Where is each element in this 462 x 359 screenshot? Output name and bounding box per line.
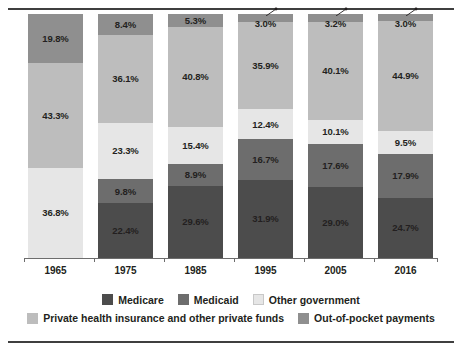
x-axis-tick — [437, 258, 438, 262]
segment-value-label: 17.9% — [392, 171, 418, 181]
top-divider-rule — [8, 8, 454, 10]
segment-value-label: 29.6% — [182, 217, 208, 227]
segment-2016-medicaid[interactable]: 17.9% — [378, 154, 433, 198]
segment-1995-private-health-insurance-and-other-private-funds[interactable]: 35.9% — [238, 22, 293, 110]
legend-swatch-icon — [178, 294, 189, 305]
segment-value-label: 43.3% — [42, 111, 68, 121]
segment-1975-medicaid[interactable]: 9.8% — [98, 179, 153, 203]
segment-2016-medicare[interactable]: 24.7% — [378, 198, 433, 258]
legend-label: Private health insurance and other priva… — [43, 312, 284, 324]
segment-value-label: 44.9% — [392, 71, 418, 81]
segment-value-label: 5.3% — [185, 16, 206, 26]
segment-1975-private-health-insurance-and-other-private-funds[interactable]: 36.1% — [98, 35, 153, 123]
segment-1975-out-of-pocket-payments[interactable]: 8.4% — [98, 14, 153, 34]
segment-value-label: 19.8% — [42, 34, 68, 44]
segment-value-label: 23.3% — [112, 146, 138, 156]
segment-value-label: 29.0% — [322, 218, 348, 228]
legend-label: Medicaid — [194, 294, 239, 306]
legend-swatch-icon — [253, 294, 264, 305]
segment-1985-other-government[interactable]: 15.4% — [168, 127, 223, 165]
x-axis-label-2005: 2005 — [308, 265, 363, 276]
bar-1975[interactable]: 8.4%36.1%23.3%9.8%22.4% — [98, 14, 153, 258]
segment-value-label: 9.8% — [115, 187, 136, 197]
segment-value-label: 16.7% — [252, 155, 278, 165]
segment-value-label: 9.5% — [395, 138, 416, 148]
segment-value-label: 15.4% — [182, 141, 208, 151]
segment-1995-medicaid[interactable]: 16.7% — [238, 139, 293, 180]
x-axis-tick — [304, 258, 305, 262]
x-axis-tick — [164, 258, 165, 262]
segment-1985-private-health-insurance-and-other-private-funds[interactable]: 40.8% — [168, 27, 223, 127]
segment-value-label: 40.1% — [322, 66, 348, 76]
bar-2005[interactable]: 3.2%40.1%10.1%17.6%29.0% — [308, 14, 363, 258]
x-axis-tick — [234, 258, 235, 262]
segment-1975-other-government[interactable]: 23.3% — [98, 123, 153, 180]
bottom-divider-rule — [8, 341, 454, 343]
segment-value-label: 17.6% — [322, 161, 348, 171]
segment-value-label: 40.8% — [182, 72, 208, 82]
segment-2005-private-health-insurance-and-other-private-funds[interactable]: 40.1% — [308, 22, 363, 120]
segment-value-label: 36.8% — [42, 208, 68, 218]
segment-1985-out-of-pocket-payments[interactable]: 5.3% — [168, 14, 223, 27]
segment-value-label: 8.9% — [185, 170, 206, 180]
segment-value-label: 36.1% — [112, 74, 138, 84]
segment-value-label: 22.4% — [112, 226, 138, 236]
segment-1965-other-government[interactable]: 36.8% — [28, 168, 83, 258]
segment-2005-other-government[interactable]: 10.1% — [308, 120, 363, 145]
chart-legend: MedicareMedicaidOther government Private… — [0, 291, 462, 328]
segment-value-label: 35.9% — [252, 61, 278, 71]
legend-item-out-of-pocket-payments[interactable]: Out-of-pocket payments — [298, 312, 435, 324]
segment-1995-other-government[interactable]: 12.4% — [238, 109, 293, 139]
segment-value-label: 3.2% — [325, 19, 346, 29]
legend-swatch-icon — [102, 294, 113, 305]
bar-1985[interactable]: 5.3%40.8%15.4%8.9%29.6% — [168, 14, 223, 258]
segment-value-label: 3.0% — [255, 19, 276, 29]
segment-1995-medicare[interactable]: 31.9% — [238, 180, 293, 258]
segment-value-label: 24.7% — [392, 223, 418, 233]
segment-value-label: 31.9% — [252, 214, 278, 224]
legend-swatch-icon — [298, 313, 309, 324]
segment-2005-medicare[interactable]: 29.0% — [308, 187, 363, 258]
x-axis-label-2016: 2016 — [378, 265, 433, 276]
bar-1995[interactable]: 3.0%35.9%12.4%16.7%31.9% — [238, 14, 293, 258]
legend-item-medicaid[interactable]: Medicaid — [178, 294, 239, 306]
stacked-bar-plot-area: 19.8%43.3%36.8%8.4%36.1%23.3%9.8%22.4%5.… — [0, 14, 462, 258]
x-axis-label-1975: 1975 — [98, 265, 153, 276]
segment-1965-private-health-insurance-and-other-private-funds[interactable]: 43.3% — [28, 63, 83, 169]
legend-item-other-government[interactable]: Other government — [253, 294, 360, 306]
segment-2005-medicaid[interactable]: 17.6% — [308, 144, 363, 187]
x-axis-line — [24, 258, 438, 259]
segment-1995-out-of-pocket-payments[interactable]: 3.0% — [238, 14, 293, 21]
x-axis-label-1995: 1995 — [238, 265, 293, 276]
x-axis-label-1965: 1965 — [28, 265, 83, 276]
x-axis-tick — [24, 258, 25, 262]
x-axis-tick — [94, 258, 95, 262]
segment-1985-medicare[interactable]: 29.6% — [168, 186, 223, 258]
x-axis-label-1985: 1985 — [168, 265, 223, 276]
chart-figure: 19.8%43.3%36.8%8.4%36.1%23.3%9.8%22.4%5.… — [0, 0, 462, 359]
legend-row-primary: MedicareMedicaidOther government — [0, 291, 462, 308]
segment-value-label: 3.0% — [395, 19, 416, 29]
legend-label: Medicare — [118, 294, 164, 306]
segment-2016-private-health-insurance-and-other-private-funds[interactable]: 44.9% — [378, 21, 433, 131]
segment-1985-medicaid[interactable]: 8.9% — [168, 164, 223, 186]
segment-2005-out-of-pocket-payments[interactable]: 3.2% — [308, 14, 363, 22]
bar-2016[interactable]: 3.0%44.9%9.5%17.9%24.7% — [378, 14, 433, 258]
segment-2016-other-government[interactable]: 9.5% — [378, 131, 433, 154]
segment-1975-medicare[interactable]: 22.4% — [98, 203, 153, 258]
segment-1965-out-of-pocket-payments[interactable]: 19.8% — [28, 14, 83, 62]
segment-value-label: 12.4% — [252, 120, 278, 130]
segment-value-label: 10.1% — [322, 127, 348, 137]
legend-label: Out-of-pocket payments — [314, 312, 435, 324]
segment-value-label: 8.4% — [115, 20, 136, 30]
legend-row-secondary: Private health insurance and other priva… — [0, 308, 462, 328]
bar-1965[interactable]: 19.8%43.3%36.8% — [28, 14, 83, 258]
legend-item-private-health-insurance-and-other-private-funds[interactable]: Private health insurance and other priva… — [27, 312, 284, 324]
legend-swatch-icon — [27, 313, 38, 324]
segment-2016-out-of-pocket-payments[interactable]: 3.0% — [378, 14, 433, 21]
legend-label: Other government — [269, 294, 360, 306]
x-axis-tick — [374, 258, 375, 262]
legend-item-medicare[interactable]: Medicare — [102, 294, 164, 306]
